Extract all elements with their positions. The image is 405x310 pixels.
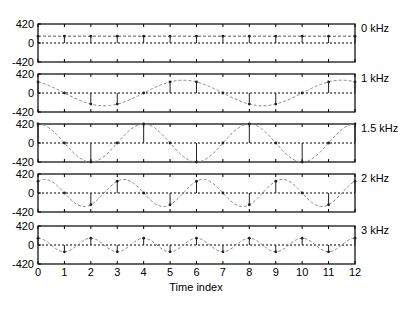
- y-tick-label: 0: [28, 87, 34, 99]
- stem-marker: [169, 250, 172, 253]
- stem-marker: [89, 35, 92, 38]
- stem-marker: [169, 35, 172, 38]
- y-tick-label: 0: [28, 137, 34, 149]
- y-tick-label: 420: [16, 168, 34, 180]
- stem-marker: [248, 203, 251, 206]
- y-tick-label: -420: [12, 206, 34, 218]
- panel-0-kHz: 4200-4200 kHz: [12, 18, 389, 68]
- stem-marker: [354, 180, 357, 183]
- stem-marker: [274, 142, 277, 145]
- frequency-label: 3 kHz: [361, 224, 389, 236]
- stem-marker: [37, 123, 40, 126]
- stem-marker: [142, 35, 145, 38]
- x-axis-label: Time index: [169, 281, 223, 293]
- stem-marker: [301, 161, 304, 164]
- y-tick-label: -420: [12, 106, 34, 118]
- stem-marker: [274, 35, 277, 38]
- stem-marker: [354, 35, 357, 38]
- x-tick-label: 7: [220, 266, 226, 278]
- stem-marker: [89, 161, 92, 164]
- x-tick-label: 5: [167, 266, 173, 278]
- frequency-label: 1 kHz: [361, 72, 389, 84]
- y-tick-label: 420: [16, 68, 34, 80]
- stem-marker: [327, 35, 330, 38]
- stem-marker: [195, 81, 198, 84]
- stem-marker: [63, 92, 66, 95]
- stem-marker: [301, 192, 304, 195]
- x-tick-label: 4: [141, 266, 147, 278]
- stem-marker: [222, 92, 225, 95]
- stem-marker: [222, 142, 225, 145]
- y-tick-label: -420: [12, 156, 34, 168]
- stem-marker: [327, 142, 330, 145]
- stem-marker: [142, 192, 145, 195]
- stem-marker: [89, 237, 92, 240]
- y-tick-label: 0: [28, 239, 34, 251]
- stem-marker: [248, 123, 251, 126]
- stem-marker: [248, 35, 251, 38]
- panels-group: 4200-4200 kHz4200-4201 kHz4200-4201.5 kH…: [12, 18, 398, 278]
- y-tick-label: 0: [28, 37, 34, 49]
- frequency-label: 1.5 kHz: [361, 122, 398, 134]
- stem-marker: [327, 203, 330, 206]
- stem-marker: [89, 203, 92, 206]
- stem-marker: [301, 92, 304, 95]
- y-tick-label: 420: [16, 220, 34, 232]
- stem-marker: [195, 180, 198, 183]
- stem-marker: [327, 81, 330, 84]
- x-tick-label: 2: [88, 266, 94, 278]
- stem-marker: [301, 35, 304, 38]
- stem-marker: [195, 161, 198, 164]
- stem-marker: [116, 180, 119, 183]
- stem-marker: [169, 81, 172, 84]
- x-tick-label: 8: [246, 266, 252, 278]
- panel-1-kHz: 4200-4201 kHz: [12, 68, 389, 118]
- stem-marker: [116, 35, 119, 38]
- x-tick-label: 0: [35, 266, 41, 278]
- stem-marker: [63, 35, 66, 38]
- stem-marker: [116, 250, 119, 253]
- x-tick-label: 1: [61, 266, 67, 278]
- stem-marker: [327, 250, 330, 253]
- x-tick-label: 11: [323, 266, 334, 278]
- stem-marker: [195, 35, 198, 38]
- stem-marker: [89, 103, 92, 106]
- frequency-label: 2 kHz: [361, 172, 389, 184]
- y-tick-label: 420: [16, 18, 34, 30]
- stem-marker: [354, 81, 357, 84]
- x-tick-label: 6: [193, 266, 199, 278]
- stem-marker: [37, 180, 40, 183]
- stem-marker: [116, 142, 119, 145]
- stem-marker: [169, 142, 172, 145]
- y-tick-label: 0: [28, 187, 34, 199]
- stem-marker: [274, 250, 277, 253]
- stem-marker: [142, 92, 145, 95]
- stem-marker: [222, 35, 225, 38]
- stem-marker: [63, 192, 66, 195]
- stem-marker: [222, 250, 225, 253]
- stem-marker: [142, 123, 145, 126]
- panel-2-kHz: 4200-4202 kHz: [12, 168, 389, 218]
- x-tick-label: 9: [273, 266, 279, 278]
- stem-marker: [222, 192, 225, 195]
- y-tick-label: -420: [12, 258, 34, 270]
- panel-1-5-kHz: 4200-4201.5 kHz: [12, 118, 398, 168]
- panel-3-kHz: 4200-4203 kHz: [12, 220, 389, 270]
- stem-marker: [37, 35, 40, 38]
- stem-marker: [195, 237, 198, 240]
- stem-marker: [169, 203, 172, 206]
- stem-marker: [354, 237, 357, 240]
- stem-marker: [274, 180, 277, 183]
- y-tick-label: 420: [16, 118, 34, 130]
- stem-marker: [301, 237, 304, 240]
- stem-marker: [37, 81, 40, 84]
- stem-marker: [142, 237, 145, 240]
- stem-marker: [37, 237, 40, 240]
- stem-marker: [63, 142, 66, 145]
- stem-marker: [116, 103, 119, 106]
- y-tick-label: -420: [12, 56, 34, 68]
- stem-marker: [63, 250, 66, 253]
- stem-marker: [354, 123, 357, 126]
- x-tick-label: 3: [114, 266, 120, 278]
- stem-marker: [248, 237, 251, 240]
